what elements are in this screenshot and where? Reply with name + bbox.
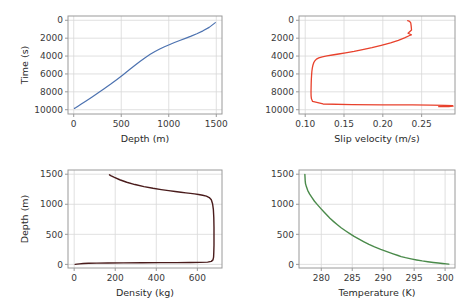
x-tick-label: 280 bbox=[313, 273, 330, 283]
figure-canvas: 0500100015000200040006000800010000Depth … bbox=[0, 0, 465, 308]
y-tick-label: 500 bbox=[277, 230, 294, 240]
x-tick-label: 290 bbox=[375, 273, 392, 283]
plot-background bbox=[299, 170, 455, 268]
y-tick-label: 1500 bbox=[271, 169, 294, 179]
y-tick-label: 0 bbox=[288, 260, 294, 270]
x-tick-label: 300 bbox=[437, 273, 454, 283]
x-tick-label: 285 bbox=[344, 273, 361, 283]
x-tick-label: 295 bbox=[406, 273, 423, 283]
y-tick-label: 1000 bbox=[271, 199, 294, 209]
x-axis-label: Temperature (K) bbox=[338, 287, 416, 298]
